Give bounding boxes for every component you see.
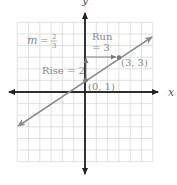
slope-var: m	[27, 34, 37, 47]
slope-label: m = 2 3	[27, 33, 57, 50]
slope-numerator: 2	[52, 33, 56, 41]
y-axis-label: y	[81, 0, 89, 7]
coordinate-graph: x y (0, 1) (3, 3) m = 2 3 Run = 3 Rise =…	[0, 0, 177, 185]
run-label-line1: Run	[92, 31, 113, 42]
rise-label: Rise = 2	[42, 65, 85, 76]
slope-equals: =	[40, 35, 48, 46]
slope-denominator: 3	[52, 42, 56, 50]
run-label-line2: = 3	[92, 42, 110, 53]
point-3-3-label: (3, 3)	[121, 57, 148, 68]
point-0-1-label: (0, 1)	[88, 81, 115, 92]
x-axis-label: x	[168, 86, 175, 99]
